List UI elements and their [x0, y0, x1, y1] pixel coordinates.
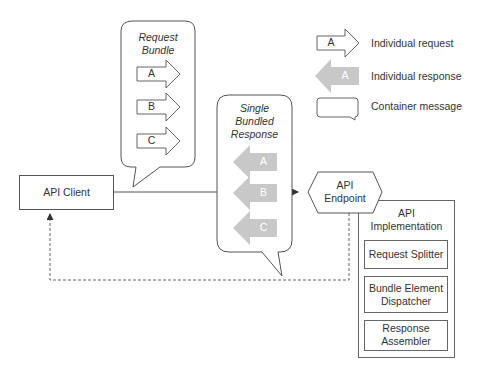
- request-item-c-label: C: [137, 134, 166, 147]
- response-item-b-label: B: [250, 186, 277, 199]
- legend-container-bubble-icon: [317, 98, 358, 120]
- api-implementation-title: API Implementation: [358, 207, 455, 233]
- response-bundle-title: Single Bundled Response: [217, 102, 292, 141]
- legend-response-letter: A: [331, 69, 359, 82]
- request-bundle-title: Request Bundle: [121, 31, 195, 57]
- legend-individual-response-label: Individual response: [371, 70, 461, 82]
- response-assembler-label: Response Assembler: [364, 322, 448, 348]
- response-return-connector: [50, 213, 349, 280]
- response-item-c-label: C: [250, 221, 277, 234]
- request-splitter-label: Request Splitter: [364, 248, 448, 261]
- response-item-a-label: A: [250, 155, 277, 168]
- request-item-b-label: B: [137, 100, 166, 113]
- api-endpoint-label: API Endpoint: [308, 179, 382, 205]
- request-item-a-label: A: [137, 67, 166, 80]
- bundle-element-dispatcher-label: Bundle Element Dispatcher: [364, 282, 448, 308]
- api-client-label: API Client: [19, 186, 114, 199]
- legend-container-message-label: Container message: [371, 100, 462, 112]
- legend-request-letter: A: [317, 36, 345, 49]
- legend-individual-request-label: Individual request: [371, 37, 453, 49]
